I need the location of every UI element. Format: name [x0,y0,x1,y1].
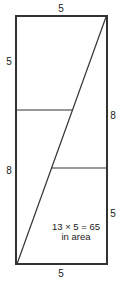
label-bottom: 5 [58,268,64,279]
area-note-line2: in area [61,231,91,242]
label-top: 5 [58,3,64,14]
label-right-upper: 8 [110,110,116,121]
label-left-lower: 8 [6,165,12,176]
label-right-lower: 5 [110,208,116,219]
rectangle-dissection-diagram: 5 5 8 8 5 5 13 × 5 = 65 in area [0,0,121,283]
label-left-upper: 5 [6,56,12,67]
